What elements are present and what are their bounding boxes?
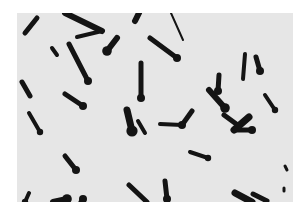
terminal-spore — [256, 67, 264, 75]
micrograph-image — [17, 13, 293, 202]
terminal-spore — [205, 155, 211, 161]
bacterium-rod — [77, 31, 102, 37]
terminal-spore — [178, 121, 186, 129]
bacterium-rod — [135, 13, 139, 21]
bacterium-rod — [253, 194, 267, 201]
terminal-spore — [84, 77, 92, 85]
bacterium-rod — [52, 48, 57, 55]
terminal-spore — [173, 54, 181, 62]
bacterium-rod — [243, 54, 245, 79]
terminal-spore — [79, 102, 87, 110]
terminal-spore — [137, 94, 145, 102]
terminal-spore — [72, 166, 80, 174]
bacterium-rod — [25, 18, 37, 33]
bacterium-rod — [65, 13, 102, 31]
bacterium-rod — [129, 185, 147, 202]
bacterium-rod — [171, 13, 183, 40]
terminal-spore — [62, 194, 72, 202]
bacterium-rod — [69, 44, 88, 81]
bacterium-rod — [29, 113, 40, 132]
terminal-spore — [126, 125, 137, 136]
bacterium-rod — [235, 193, 252, 202]
terminal-spore — [79, 195, 87, 202]
terminal-spore — [272, 107, 278, 113]
bacterium-rod — [22, 82, 30, 96]
bacterium-rod — [150, 38, 177, 58]
bacterium-rod — [285, 166, 287, 170]
bacterium-rod — [138, 121, 145, 133]
terminal-spore — [37, 129, 43, 135]
terminal-spore — [220, 103, 230, 113]
terminal-spore — [102, 46, 112, 56]
bacteria-cells — [17, 13, 293, 202]
terminal-spore — [248, 126, 256, 134]
